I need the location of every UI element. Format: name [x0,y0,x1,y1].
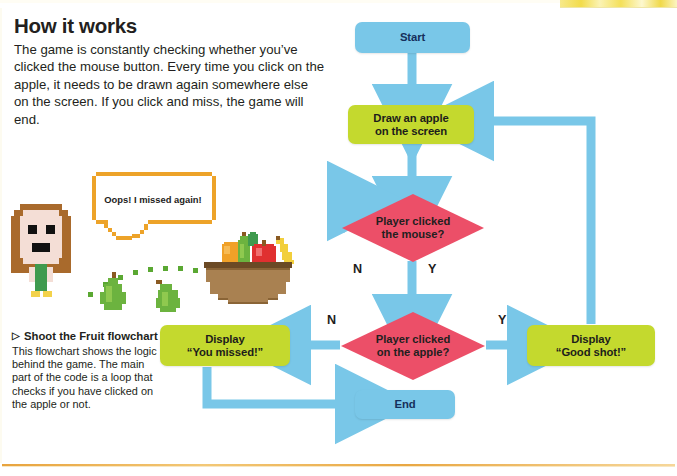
flow-node-you-missed-line1: Display [205,333,245,346]
flow-node-draw-apple-line2: on the screen [375,125,447,138]
flow-node-draw-apple-line1: Draw an apple [373,112,448,125]
flow-node-you-missed-line2: “You missed!” [187,346,263,359]
page-spread: How it works The game is constantly chec… [0,0,677,476]
branch-label-apple-no: N [327,313,336,327]
flow-node-clicked-mouse-label: Player clicked the mouse? [341,193,485,263]
flowchart-arrows [0,0,677,476]
flow-node-good-shot-line2: “Good shot!” [556,346,626,359]
branch-label-mouse-no: N [353,262,362,276]
flow-node-clicked-apple-line2: on the apple? [376,346,451,360]
flow-node-start[interactable]: Start [355,22,470,53]
flow-node-clicked-mouse-line2: the mouse? [376,228,451,242]
flow-node-clicked-mouse-line1: Player clicked [376,215,451,229]
flow-node-good-shot[interactable]: Display “Good shot!” [527,325,655,366]
flow-node-clicked-mouse[interactable]: Player clicked the mouse? [341,193,485,263]
flow-node-end-label: End [394,398,415,411]
flow-node-good-shot-line1: Display [571,333,611,346]
branch-label-apple-yes: Y [498,313,506,327]
branch-label-mouse-yes: Y [428,262,436,276]
flow-node-draw-apple[interactable]: Draw an apple on the screen [348,105,474,144]
flow-node-clicked-apple-label: Player clicked on the apple? [340,311,486,381]
flow-node-end[interactable]: End [355,390,455,419]
flow-node-clicked-apple-line1: Player clicked [376,333,451,347]
flow-node-clicked-apple[interactable]: Player clicked on the apple? [340,311,486,381]
flow-node-you-missed[interactable]: Display “You missed!” [160,325,290,366]
flow-node-start-label: Start [400,31,425,44]
